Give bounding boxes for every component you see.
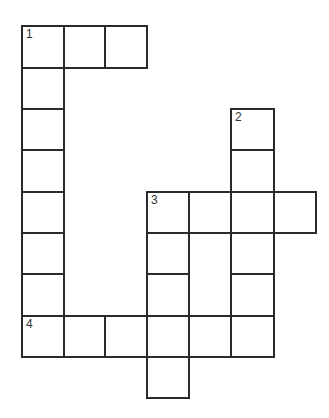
crossword-cell[interactable] [21,149,65,193]
clue-number: 1 [26,28,33,40]
crossword-cell[interactable] [104,315,148,358]
crossword-cell[interactable] [21,232,65,275]
crossword-cell[interactable] [146,232,190,275]
crossword-cell[interactable] [21,273,65,317]
clue-number: 3 [151,194,158,206]
crossword-cell[interactable]: 1 [21,25,65,69]
crossword-cell[interactable] [63,315,106,358]
clue-number: 2 [235,111,242,123]
crossword-cell[interactable] [230,191,275,234]
crossword-cell[interactable] [63,25,106,69]
crossword-cell[interactable] [230,149,275,193]
crossword-cell[interactable] [146,356,190,399]
crossword-cell[interactable] [273,191,317,234]
crossword-cell[interactable]: 2 [230,108,275,151]
crossword-cell[interactable] [104,25,148,69]
crossword-cell[interactable] [21,191,65,234]
crossword-cell[interactable]: 3 [146,191,190,234]
clue-number: 4 [26,318,33,330]
crossword-cell[interactable] [146,315,190,358]
crossword-cell[interactable] [188,191,232,234]
crossword-cell[interactable] [230,273,275,317]
crossword-cell[interactable] [21,67,65,110]
crossword-cell[interactable] [230,315,275,358]
crossword-cell[interactable]: 4 [21,315,65,358]
crossword-cell[interactable] [146,273,190,317]
crossword-cell[interactable] [230,232,275,275]
crossword-cell[interactable] [21,108,65,151]
crossword-cell[interactable] [188,315,232,358]
